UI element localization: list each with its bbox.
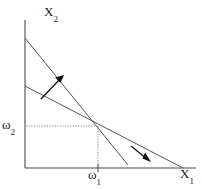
omega-1-label: ω1 (88, 167, 101, 185)
economics-budget-line-diagram: X2 X1 ω2 ω1 (0, 0, 202, 189)
flat-budget-line (25, 86, 183, 168)
down-right-arrow (131, 146, 151, 162)
steep-budget-line (25, 38, 128, 165)
x1-axis-label: X1 (180, 166, 194, 184)
diagram-canvas (0, 0, 202, 189)
omega-2-label: ω2 (2, 117, 15, 135)
up-right-arrow (41, 75, 64, 99)
x2-axis-label: X2 (44, 4, 58, 22)
